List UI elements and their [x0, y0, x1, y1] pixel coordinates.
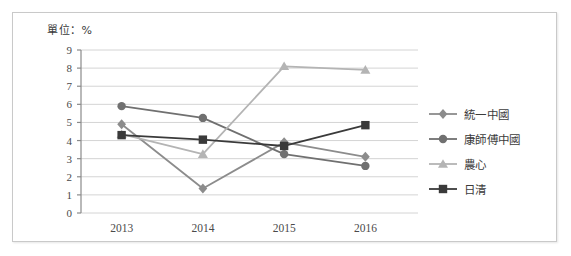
diamond-marker-icon — [428, 105, 458, 123]
data-point-1-0 — [117, 102, 125, 110]
triangle-marker-icon — [428, 155, 458, 173]
data-point-3-0 — [117, 131, 125, 139]
chart-frame: 單位：% 9876543210 2013201420152016 統一中國康師傅… — [12, 12, 557, 242]
legend-marker-0 — [439, 109, 448, 119]
x-tick-label-2015: 2015 — [273, 222, 296, 234]
y-tick-label-9: 9 — [67, 44, 73, 56]
x-tick-label-2013: 2013 — [110, 222, 133, 234]
legend-item-1[interactable]: 康師傅中國 — [428, 126, 553, 151]
data-point-1-2 — [280, 150, 288, 158]
x-tick-label-2016: 2016 — [354, 222, 377, 234]
y-tick-label-6: 6 — [67, 98, 73, 110]
legend-label-0: 統一中國 — [458, 106, 509, 122]
legend-label-2: 農心 — [458, 156, 487, 172]
y-tick-label-8: 8 — [67, 62, 73, 74]
legend-item-2[interactable]: 農心 — [428, 151, 553, 176]
data-point-1-1 — [199, 114, 207, 122]
y-axis-tick-labels: 9876543210 — [67, 44, 73, 219]
x-tick-label-2014: 2014 — [191, 222, 214, 234]
legend-label-1: 康師傅中國 — [458, 131, 521, 147]
legend-item-3[interactable]: 日清 — [428, 176, 553, 201]
y-tick-label-0: 0 — [67, 207, 73, 219]
data-point-1-3 — [361, 162, 369, 170]
y-tick-label-7: 7 — [67, 80, 73, 92]
chart-legend: 統一中國康師傅中國農心日清 — [428, 101, 553, 201]
y-tick-label-5: 5 — [67, 116, 73, 128]
chart-plot-container: 單位：% 9876543210 2013201420152016 統一中國康師傅… — [13, 13, 558, 243]
x-axis-tick-labels: 2013201420152016 — [110, 222, 377, 234]
legend-item-0[interactable]: 統一中國 — [428, 101, 553, 126]
series-markers-group — [117, 62, 371, 194]
axis-lines-group — [77, 50, 81, 213]
data-point-0-3 — [361, 152, 370, 162]
data-point-3-2 — [280, 142, 288, 150]
legend-marker-3 — [439, 184, 447, 192]
data-point-3-1 — [199, 135, 207, 143]
data-point-3-3 — [361, 121, 369, 129]
circle-marker-icon — [428, 130, 458, 148]
legend-marker-1 — [439, 134, 447, 142]
legend-label-3: 日清 — [458, 181, 487, 197]
y-tick-label-3: 3 — [67, 153, 73, 165]
y-tick-label-4: 4 — [67, 135, 73, 147]
series-lines-group — [122, 66, 366, 188]
y-tick-label-2: 2 — [67, 171, 73, 183]
y-tick-label-1: 1 — [67, 189, 73, 201]
series-line-1 — [122, 106, 366, 166]
square-marker-icon — [428, 180, 458, 198]
